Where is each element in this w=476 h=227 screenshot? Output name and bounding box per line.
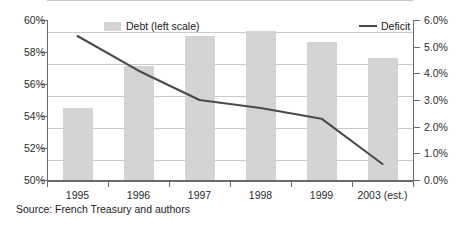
x-axis-tick <box>169 181 170 187</box>
x-axis-tick <box>352 181 353 187</box>
right-axis-tick-label: 1.0% <box>424 148 448 159</box>
bar <box>63 108 93 180</box>
source-note: Source: French Treasury and authors <box>16 203 190 215</box>
right-axis-tick <box>413 100 420 101</box>
x-axis-tick <box>230 181 231 187</box>
x-axis-tick-label: 1995 <box>47 190 108 201</box>
right-axis-tick <box>413 153 420 154</box>
left-axis-tick-label: 54% <box>24 111 45 122</box>
bar <box>185 36 215 180</box>
x-axis-tick <box>413 181 414 187</box>
x-axis-tick <box>108 181 109 187</box>
x-axis-tick-label: 2003 (est.) <box>352 190 413 201</box>
right-axis-tick <box>413 47 420 48</box>
right-axis-tick-label: 6.0% <box>424 15 448 26</box>
legend-swatch-deficit-icon <box>359 25 377 27</box>
bar <box>307 42 337 180</box>
left-axis-tick-label: 60% <box>24 15 45 26</box>
legend-label-deficit: Deficit <box>381 21 410 32</box>
right-axis-tick <box>413 180 420 181</box>
chart-figure: 50%52%54%56%58%60% 0.0%1.0%2.0%3.0%4.0%5… <box>0 0 476 227</box>
left-axis-tick-label: 58% <box>24 47 45 58</box>
legend-swatch-debt-icon <box>104 22 121 31</box>
gridline <box>47 160 413 161</box>
legend-item-debt: Debt (left scale) <box>104 21 200 32</box>
right-axis-tick <box>413 73 420 74</box>
x-axis-tick-label: 1997 <box>169 190 230 201</box>
gridline <box>47 96 413 97</box>
gridline <box>47 0 413 1</box>
right-axis-tick-label: 2.0% <box>424 122 448 133</box>
right-axis-tick-label: 5.0% <box>424 42 448 53</box>
x-axis-tick-label: 1998 <box>230 190 291 201</box>
bar <box>246 31 276 180</box>
right-axis-tick <box>413 127 420 128</box>
left-axis-line <box>47 20 48 181</box>
bar <box>124 66 154 180</box>
left-axis-tick-label: 52% <box>24 143 45 154</box>
bar <box>368 58 398 180</box>
right-axis-tick-label: 3.0% <box>424 95 448 106</box>
gridline <box>47 64 413 65</box>
x-axis-tick-label: 1999 <box>291 190 352 201</box>
right-axis-tick-label: 4.0% <box>424 68 448 79</box>
x-axis-tick <box>291 181 292 187</box>
left-axis-tick-label: 50% <box>24 175 45 186</box>
right-axis-tick <box>413 20 420 21</box>
gridline <box>47 32 413 33</box>
legend-label-debt: Debt (left scale) <box>126 21 200 32</box>
x-axis-tick <box>47 181 48 187</box>
right-axis-tick-label: 0.0% <box>424 175 448 186</box>
gridline <box>47 128 413 129</box>
legend-item-deficit: Deficit <box>359 21 410 32</box>
left-axis-tick-label: 56% <box>24 79 45 90</box>
x-axis-tick-label: 1996 <box>108 190 169 201</box>
